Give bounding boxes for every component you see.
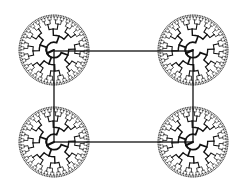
radial-trees [19, 15, 228, 177]
diagram-canvas [0, 0, 243, 192]
diagram-svg [0, 0, 243, 192]
